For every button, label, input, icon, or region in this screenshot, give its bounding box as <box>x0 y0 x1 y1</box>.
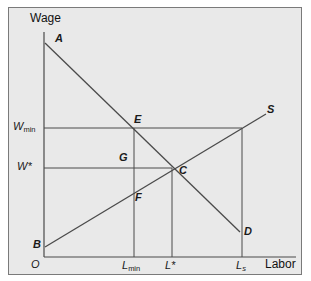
y-tick-wstar: W* <box>17 161 32 172</box>
point-label-b: B <box>33 239 41 250</box>
y-tick-wmin-sub: min <box>23 125 35 134</box>
y-tick-wmin-base: W <box>13 120 23 132</box>
figure-root: Wage Labor O Wmin W* Lmin L* Ls A B C D … <box>0 0 311 281</box>
point-label-a: A <box>55 33 63 44</box>
x-tick-ls: Ls <box>236 260 246 271</box>
point-label-g: G <box>119 152 128 163</box>
x-tick-lstar: L* <box>165 260 175 271</box>
point-label-c: C <box>179 165 187 176</box>
point-label-d: D <box>244 226 252 237</box>
curve-label-s: S <box>267 104 274 115</box>
x-tick-lmin: Lmin <box>122 260 140 271</box>
diagram-canvas <box>0 0 311 281</box>
y-tick-wmin: Wmin <box>13 121 35 132</box>
origin-label: O <box>31 259 40 270</box>
x-tick-ls-sub: s <box>242 264 246 273</box>
y-tick-wstar-base: W* <box>17 160 32 172</box>
x-tick-lmin-sub: min <box>128 264 140 273</box>
demand-curve <box>45 43 240 232</box>
x-tick-lstar-base: L* <box>165 259 175 271</box>
point-label-f: F <box>135 192 142 203</box>
point-label-e: E <box>134 114 141 125</box>
y-axis-title: Wage <box>30 12 61 24</box>
supply-curve <box>45 114 266 247</box>
x-axis-title: Labor <box>265 258 296 270</box>
